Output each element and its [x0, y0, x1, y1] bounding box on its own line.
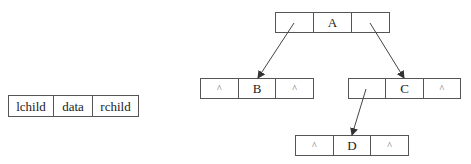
legend-rchild-field: rchild	[93, 96, 138, 116]
legend-node-structure: lchild data rchild	[8, 95, 139, 117]
node-b-data: B	[239, 79, 277, 98]
node-c-lchild-pointer	[349, 79, 386, 98]
tree-node-d: ^ D ^	[295, 135, 409, 156]
node-d-data: D	[334, 136, 372, 155]
node-c-rchild-null: ^	[424, 79, 460, 98]
tree-node-b: ^ B ^	[200, 78, 314, 99]
node-a-lchild-pointer	[276, 13, 314, 32]
node-d-rchild-null: ^	[371, 136, 408, 155]
legend-lchild-field: lchild	[9, 96, 54, 116]
node-a-data: A	[314, 13, 352, 32]
node-b-lchild-null: ^	[201, 79, 239, 98]
tree-node-a: A	[275, 12, 390, 33]
node-b-rchild-null: ^	[276, 79, 313, 98]
node-a-rchild-pointer	[352, 13, 389, 32]
node-d-lchild-null: ^	[296, 136, 334, 155]
legend-data-field: data	[54, 96, 93, 116]
tree-node-c: C ^	[348, 78, 461, 99]
node-c-data: C	[386, 79, 423, 98]
